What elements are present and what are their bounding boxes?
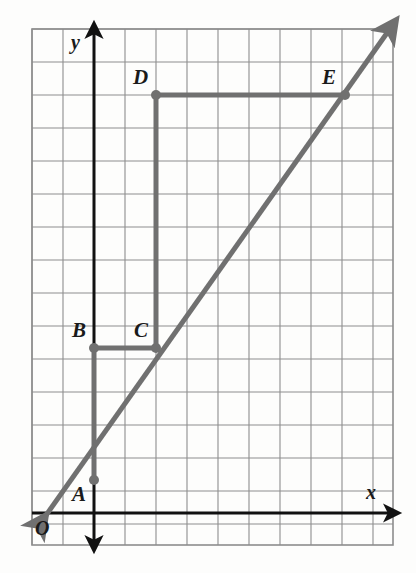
point-marker-B (89, 343, 99, 353)
point-marker-D (151, 90, 161, 100)
coordinate-plane-svg (0, 0, 416, 573)
origin-label: O (35, 518, 49, 538)
point-label-E: E (322, 67, 336, 88)
point-label-A: A (72, 484, 86, 505)
point-label-D: D (133, 67, 148, 88)
figure-canvas: A B C D E x y O (0, 0, 416, 573)
grid-border (32, 29, 393, 545)
diagonal-line (37, 33, 387, 528)
x-axis-label: x (366, 482, 376, 502)
staircase-path (94, 95, 345, 480)
point-marker-E (340, 90, 350, 100)
point-label-B: B (72, 320, 86, 341)
point-label-C: C (134, 320, 148, 341)
point-marker-C (151, 343, 161, 353)
grid-lines (32, 29, 393, 545)
y-axis-label: y (71, 32, 80, 52)
point-marker-A (89, 475, 99, 485)
